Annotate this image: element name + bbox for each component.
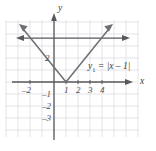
x-tick-label-1: 1	[64, 86, 69, 95]
y-tick-label-neg3: –3	[42, 114, 51, 123]
curve-label-expression: = |x – 1|	[95, 61, 130, 71]
x-tick-label-3: 3	[88, 86, 93, 95]
curve-equation-label: y1 = |x – 1|	[88, 62, 130, 73]
x-tick-label-2: 2	[76, 86, 81, 95]
horizontal-line-series	[16, 35, 130, 41]
y-axis	[51, 13, 57, 140]
x-tick-label-4: 4	[100, 86, 105, 95]
graph-figure: y x –2 1 2 3 4 2 –1 –2 –3 y1 = |x – 1|	[0, 0, 156, 151]
y-tick-label-2: 2	[45, 54, 50, 63]
y-tick-label-neg2: –2	[42, 102, 51, 111]
y-tick-label-neg1: –1	[42, 90, 51, 99]
x-axis-label: x	[140, 77, 144, 87]
x-tick-label-neg2: –2	[22, 86, 31, 95]
y-axis-label: y	[58, 4, 62, 14]
coordinate-plane-svg	[0, 0, 156, 151]
